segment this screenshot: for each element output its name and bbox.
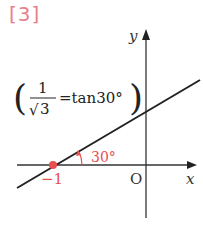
point-label: −1 [41,170,63,188]
close-paren: ) [129,77,143,118]
x-axis-arrow-icon [187,161,197,169]
fraction-numerator: 1 [38,79,48,97]
y-axis-label: y [128,27,138,45]
angle-label: 30° [91,149,116,165]
x-axis-label: x [186,170,195,188]
fraction-denominator: 3 [40,100,50,118]
y-axis-arrow-icon [142,29,150,40]
tan-expression: =tan30° [59,89,123,107]
sqrt-sign: √ [29,101,39,119]
graph: y x O −1 30° ( 1 √ 3 =tan30° ) [0,0,203,246]
origin-label: O [130,170,142,188]
intercept-point [49,161,57,169]
open-paren: ( [13,77,27,118]
